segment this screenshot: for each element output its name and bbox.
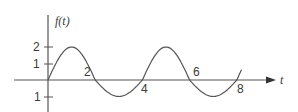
x-tick-label-8: 8: [237, 82, 244, 96]
x-axis-label: t: [280, 73, 284, 87]
function-plot: f(t) t 2 1 1 2 4 6 8: [0, 0, 298, 112]
x-axis-arrow-icon: [266, 77, 276, 84]
y-axis-label: f(t): [55, 14, 70, 28]
y-tick-label-neg1: 1: [34, 90, 41, 104]
x-tick-label-6: 6: [193, 65, 200, 79]
y-tick-label-1: 1: [33, 57, 40, 71]
y-tick-label-2: 2: [33, 40, 40, 54]
x-tick-label-2: 2: [84, 65, 91, 79]
x-tick-label-4: 4: [141, 82, 148, 96]
